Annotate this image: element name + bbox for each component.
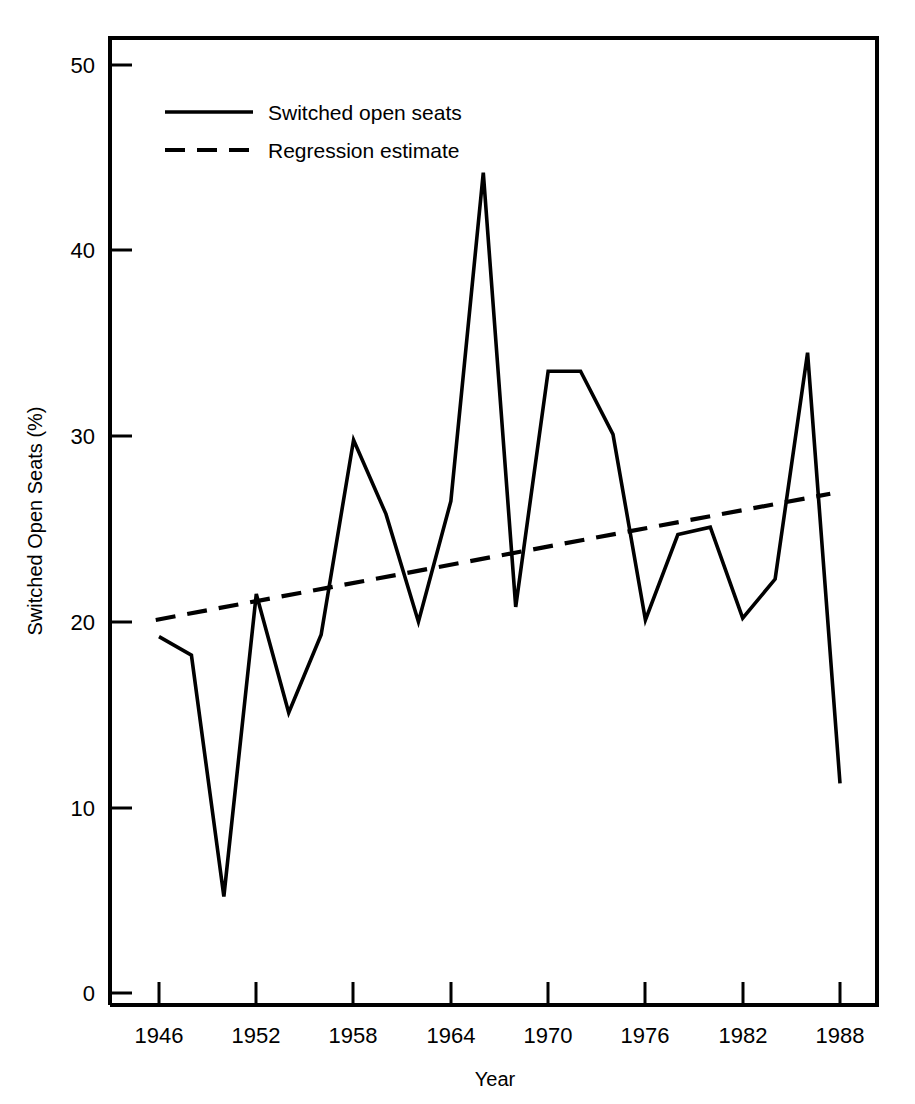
legend-label-switched-open-seats: Switched open seats <box>268 101 462 124</box>
chart-legend: Switched open seats Regression estimate <box>165 101 462 162</box>
y-axis-tick-labels: 50 40 30 20 10 0 <box>71 53 95 1006</box>
y-axis-title: Switched Open Seats (%) <box>24 407 46 636</box>
x-axis-tick-labels: 1946 1952 1958 1964 1970 1976 1982 1988 <box>135 1023 865 1048</box>
x-tick-label-1964: 1964 <box>427 1023 476 1048</box>
y-tick-label-40: 40 <box>71 238 95 263</box>
y-tick-label-20: 20 <box>71 610 95 635</box>
y-tick-label-50: 50 <box>71 53 95 78</box>
legend-label-regression-estimate: Regression estimate <box>268 139 459 162</box>
chart-figure: 50 40 30 20 10 0 Switched Open Seats (%)… <box>0 0 915 1104</box>
x-tick-label-1952: 1952 <box>232 1023 281 1048</box>
x-axis-title: Year <box>475 1068 516 1090</box>
x-tick-label-1982: 1982 <box>719 1023 768 1048</box>
plot-frame <box>110 38 877 1005</box>
x-tick-label-1988: 1988 <box>816 1023 865 1048</box>
y-tick-label-10: 10 <box>71 796 95 821</box>
x-tick-label-1946: 1946 <box>135 1023 184 1048</box>
switched-open-seats-line <box>159 173 840 897</box>
y-tick-label-30: 30 <box>71 424 95 449</box>
x-axis-ticks <box>159 982 840 1005</box>
line-chart: 50 40 30 20 10 0 Switched Open Seats (%)… <box>0 0 915 1104</box>
x-tick-label-1958: 1958 <box>329 1023 378 1048</box>
y-tick-label-0: 0 <box>83 981 95 1006</box>
x-tick-label-1976: 1976 <box>621 1023 670 1048</box>
y-axis-ticks <box>110 65 132 993</box>
x-tick-label-1970: 1970 <box>524 1023 573 1048</box>
